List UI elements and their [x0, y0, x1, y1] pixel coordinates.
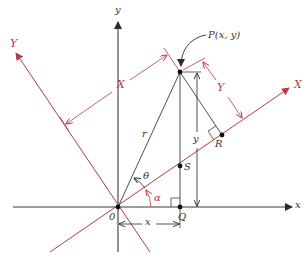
dim-Y-down: [228, 97, 242, 118]
x-axis-label: x: [295, 200, 301, 210]
origin-label: 0: [109, 212, 115, 222]
point-O: [116, 205, 121, 210]
alpha-arc: [146, 190, 151, 207]
rotated-y-axis: [16, 53, 150, 252]
point-P-label: P(x, y): [208, 30, 240, 40]
theta-label: θ: [143, 171, 149, 181]
dim-x-label: x: [145, 217, 151, 227]
point-R-label: R: [215, 139, 223, 149]
tick-X-left: [60, 117, 69, 131]
rotation-of-axes-diagram: [0, 0, 306, 264]
y-axis-label: y: [115, 5, 121, 15]
point-Q: [178, 205, 183, 210]
dim-X-right: [130, 55, 167, 80]
rotated-Y-axis-label: Y: [10, 38, 17, 49]
dim-Y-up: [203, 62, 216, 80]
point-S: [178, 164, 183, 169]
point-P: [178, 70, 183, 75]
point-R: [220, 133, 225, 138]
dim-X-left: [66, 92, 112, 124]
segment-PR: [180, 72, 222, 135]
radius-line: [118, 72, 180, 207]
tick-X-right: [164, 48, 180, 72]
rotated-x-axis: [50, 88, 289, 252]
dim-y-label: y: [193, 134, 199, 144]
radius-label: r: [142, 129, 147, 139]
rotated-X-axis-label: X: [294, 79, 302, 90]
P-pointer: [181, 35, 206, 66]
tick-Y-top: [183, 58, 205, 70]
dim-X-label: X: [117, 79, 125, 90]
dim-Y-label: Y: [217, 82, 224, 93]
point-Q-label: Q: [178, 212, 186, 222]
point-S-label: S: [184, 162, 191, 172]
alpha-label: α: [154, 193, 161, 203]
